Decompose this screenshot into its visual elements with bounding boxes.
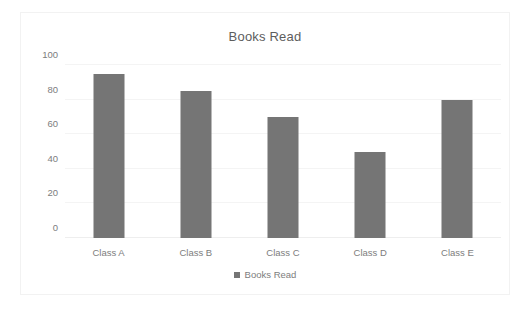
x-axis-tick-label: Class A [92, 247, 124, 258]
x-axis-tick-label: Class D [354, 247, 387, 258]
chart-legend: Books Read [21, 269, 509, 280]
x-axis-tick-label: Class C [266, 247, 299, 258]
bar [93, 74, 124, 238]
bar [355, 152, 386, 239]
bar-series: Class AClass BClass CClass DClass E [65, 65, 501, 238]
x-axis-tick-label: Class B [179, 247, 212, 258]
y-axis-tick-label: 60 [47, 118, 58, 129]
bar [267, 117, 298, 238]
legend-swatch-icon [234, 272, 240, 278]
bar-group: Class B [152, 65, 239, 238]
y-axis-tick-label: 40 [47, 152, 58, 163]
y-axis-tick-label: 0 [53, 222, 58, 233]
bar-group: Class E [414, 65, 501, 238]
x-axis-tick-label: Class E [441, 247, 474, 258]
y-axis-tick-label: 100 [42, 49, 58, 60]
legend-label: Books Read [245, 269, 297, 280]
y-axis-tick-label: 80 [47, 83, 58, 94]
bar [442, 100, 473, 238]
chart-title: Books Read [21, 29, 509, 44]
plot-area: 020406080100 Class AClass BClass CClass … [65, 65, 501, 238]
bar-group: Class C [239, 65, 326, 238]
bar-group: Class D [327, 65, 414, 238]
chart-container: Books Read 020406080100 Class AClass BCl… [20, 12, 510, 295]
y-axis-tick-label: 20 [47, 187, 58, 198]
bar [180, 91, 211, 238]
bar-group: Class A [65, 65, 152, 238]
